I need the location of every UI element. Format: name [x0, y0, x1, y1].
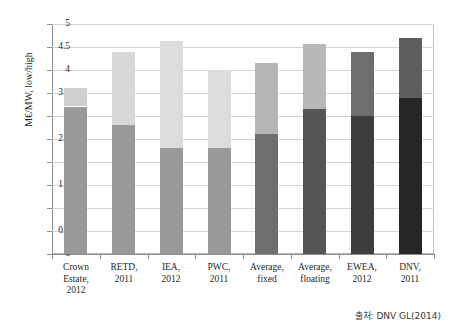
x-tick-mark	[100, 254, 101, 259]
gridline	[52, 208, 434, 209]
x-category-label: DNV,2011	[379, 262, 441, 285]
bar-segment-low	[255, 134, 278, 254]
bar-group	[303, 24, 326, 254]
x-tick-mark	[339, 254, 340, 259]
gridline	[52, 231, 434, 232]
gridline	[52, 139, 434, 140]
gridline	[52, 47, 434, 48]
bar-segment-high	[303, 44, 326, 109]
bar-group	[399, 24, 422, 254]
bar-group	[255, 24, 278, 254]
bar-segment-low	[160, 148, 183, 254]
gridline	[52, 162, 434, 163]
gridline	[52, 185, 434, 186]
x-tick-mark	[195, 254, 196, 259]
x-tick-mark	[52, 254, 53, 259]
bar-segment-high	[399, 38, 422, 98]
bar-segment-high	[112, 52, 135, 126]
bar-segment-low	[399, 98, 422, 254]
x-tick-mark	[291, 254, 292, 259]
bar-group	[112, 24, 135, 254]
bar-segment-low	[208, 148, 231, 254]
chart-figure: M€/MW, low/high 00.511.522.533.544.55 Cr…	[0, 0, 451, 333]
bar-segment-high	[208, 70, 231, 148]
gridline	[52, 116, 434, 117]
bar-group	[351, 24, 374, 254]
x-category-line: 2012	[45, 285, 107, 297]
bar-group	[208, 24, 231, 254]
bar-group	[64, 24, 87, 254]
x-tick-mark	[434, 254, 435, 259]
bar-segment-high	[160, 41, 183, 148]
x-tick-mark	[148, 254, 149, 259]
x-category-line: DNV,	[379, 262, 441, 274]
x-tick-mark	[386, 254, 387, 259]
x-tick-mark	[243, 254, 244, 259]
bar-segment-low	[112, 125, 135, 254]
bar-segment-high	[255, 63, 278, 134]
bar-group	[160, 24, 183, 254]
bar-segment-high	[64, 88, 87, 106]
bar-segment-low	[64, 107, 87, 254]
source-note: 출처: DNV GL(2014)	[355, 309, 442, 322]
y-axis-title: M€/MW, low/high	[23, 10, 34, 170]
bar-segment-high	[351, 52, 374, 116]
gridline	[52, 70, 434, 71]
gridline	[52, 24, 434, 25]
bar-segment-low	[303, 109, 326, 254]
bar-segment-low	[351, 116, 374, 254]
gridline	[52, 93, 434, 94]
x-category-line: 2011	[379, 274, 441, 286]
